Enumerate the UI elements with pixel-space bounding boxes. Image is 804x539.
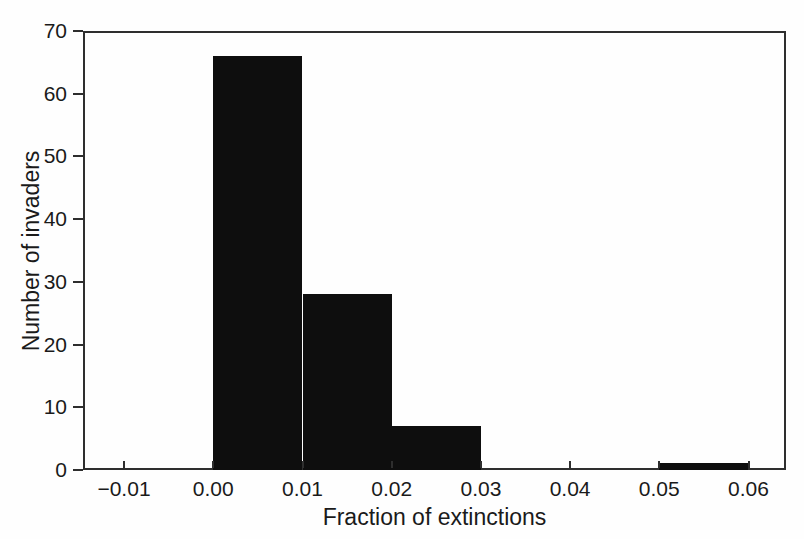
x-tick-label: 0.03 (441, 477, 521, 501)
x-axis-title: Fraction of extinctions (83, 504, 786, 531)
y-tick-label: 40 (17, 207, 67, 231)
y-axis-tick (73, 218, 83, 220)
y-axis-tick (73, 93, 83, 95)
y-axis-tick (73, 281, 83, 283)
x-tick-label: 0.02 (352, 477, 432, 501)
x-axis-tick (569, 461, 571, 468)
y-axis-tick (73, 155, 83, 157)
x-tick-label: 0.06 (709, 477, 789, 501)
y-axis-tick (73, 406, 83, 408)
histogram-figure: Fraction of extinctions Number of invade… (0, 0, 804, 539)
x-axis-tick (658, 461, 660, 468)
x-tick-label: 0.04 (530, 477, 610, 501)
x-axis-tick (748, 461, 750, 468)
y-tick-label: 10 (17, 395, 67, 419)
histogram-bar (659, 463, 748, 470)
x-tick-label: 0.01 (263, 477, 343, 501)
plot-area (83, 31, 786, 470)
y-tick-label: 0 (17, 458, 67, 482)
x-tick-label: 0.00 (173, 477, 253, 501)
x-axis-tick (480, 461, 482, 468)
y-axis-tick (73, 344, 83, 346)
y-tick-label: 30 (17, 270, 67, 294)
y-tick-label: 70 (17, 19, 67, 43)
y-tick-label: 20 (17, 333, 67, 357)
histogram-bar (213, 56, 302, 470)
x-tick-label: 0.05 (619, 477, 699, 501)
histogram-bar (392, 426, 481, 470)
histogram-bar (303, 294, 392, 470)
y-axis-title: Number of invaders (18, 150, 45, 351)
y-tick-label: 50 (17, 144, 67, 168)
x-axis-tick (212, 461, 214, 468)
x-axis-tick (123, 461, 125, 468)
y-tick-label: 60 (17, 82, 67, 106)
x-axis-tick (302, 461, 304, 468)
y-axis-tick (73, 30, 83, 32)
y-axis-tick (73, 469, 83, 471)
x-tick-label: −0.01 (84, 477, 164, 501)
x-axis-tick (391, 461, 393, 468)
